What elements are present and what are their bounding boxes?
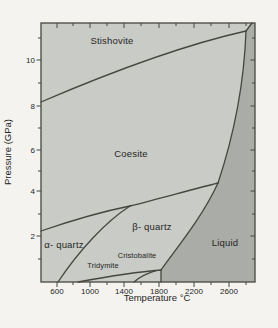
alpha-quartz-label: α- quartz bbox=[44, 239, 84, 250]
tick-label: 10 bbox=[26, 56, 35, 65]
cristobalite-label: Cristobalite bbox=[118, 251, 157, 260]
tick-label: 8 bbox=[31, 102, 36, 111]
tick-label: 2 bbox=[31, 232, 36, 241]
sio2-phase-diagram-figure: 60010001400180022002600246810 Stishovite… bbox=[0, 0, 278, 328]
liquid-label: Liquid bbox=[212, 237, 239, 248]
phase-diagram-canvas: 60010001400180022002600246810 Stishovite… bbox=[0, 0, 278, 328]
beta-quartz-label: β- quartz bbox=[132, 221, 172, 232]
tridymite-label: Tridymite bbox=[87, 261, 118, 270]
tick-label: 2600 bbox=[220, 287, 238, 296]
tick-label: 4 bbox=[31, 187, 36, 196]
coesite-label: Coesite bbox=[114, 148, 148, 159]
tick-label: 6 bbox=[31, 146, 36, 155]
tick-label: 600 bbox=[50, 287, 64, 296]
x-axis-title: Temperature °C bbox=[124, 292, 191, 303]
tick-label: 1000 bbox=[81, 287, 99, 296]
y-axis-title: Pressure (GPa) bbox=[2, 119, 13, 185]
stishovite-label: Stishovite bbox=[90, 35, 133, 46]
